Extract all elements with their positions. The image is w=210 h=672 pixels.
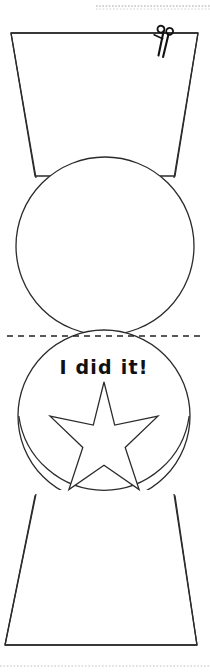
- bottom-trapezoid-mask: [35, 490, 175, 497]
- top-circle: [16, 157, 194, 335]
- craft-template-sheet: I did it!: [0, 0, 210, 672]
- top-trapezoid: [11, 33, 198, 176]
- award-message: I did it!: [59, 356, 148, 378]
- bottom-trapezoid: [5, 496, 197, 645]
